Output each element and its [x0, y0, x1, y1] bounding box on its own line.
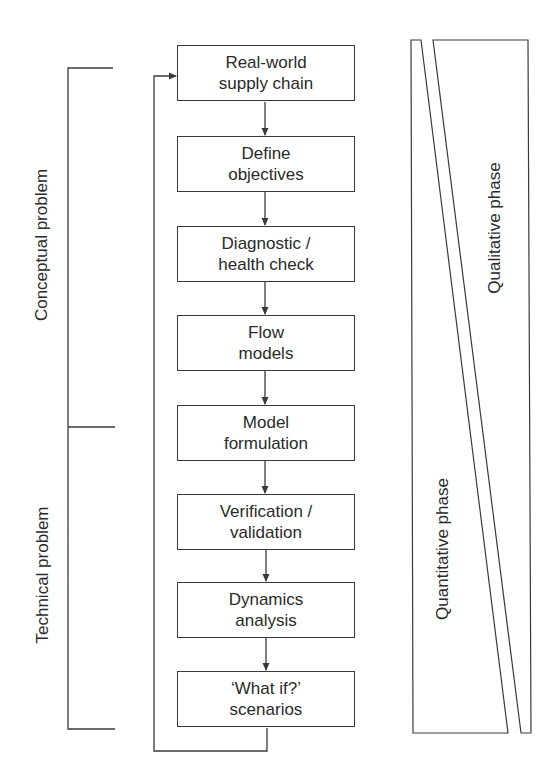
- step-model-formulation: Model formulation: [177, 405, 355, 461]
- step-real-world-supply-chain: Real-world supply chain: [177, 45, 355, 101]
- step-label-line2: formulation: [224, 433, 308, 454]
- step-label-line1: Define: [241, 143, 290, 164]
- step-what-if-scenarios: ‘What if?’ scenarios: [177, 671, 355, 727]
- step-label-line2: models: [239, 343, 294, 364]
- step-dynamics-analysis: Dynamics analysis: [177, 582, 355, 638]
- step-label-line2: objectives: [228, 164, 304, 185]
- flowchart-diagram: Real-world supply chain Define objective…: [0, 0, 556, 776]
- step-label-line2: scenarios: [230, 699, 303, 720]
- step-label-line1: Verification /: [220, 501, 313, 522]
- diagram-lines: [0, 0, 556, 776]
- step-label-line2: analysis: [235, 610, 296, 631]
- step-label-line2: validation: [230, 522, 302, 543]
- step-label-line1: Real-world: [225, 52, 306, 73]
- step-label-line1: ‘What if?’: [231, 678, 301, 699]
- step-label-line2: supply chain: [219, 73, 314, 94]
- step-define-objectives: Define objectives: [177, 136, 355, 192]
- quantitative-phase-label: Quantitative phase: [433, 478, 453, 620]
- conceptual-problem-label: Conceptual problem: [32, 169, 52, 321]
- qualitative-phase-label: Qualitative phase: [485, 162, 505, 293]
- step-diagnostic-health-check: Diagnostic / health check: [177, 226, 355, 282]
- step-label-line1: Diagnostic /: [222, 233, 311, 254]
- technical-problem-label: Technical problem: [33, 506, 53, 643]
- step-label-line1: Model: [243, 412, 289, 433]
- step-label-line2: health check: [218, 254, 313, 275]
- step-verification-validation: Verification / validation: [177, 494, 355, 550]
- step-label-line1: Dynamics: [229, 589, 304, 610]
- step-label-line1: Flow: [248, 322, 284, 343]
- problem-brackets: [68, 68, 115, 729]
- phase-wedges: [411, 40, 531, 733]
- outer-bracket: [68, 68, 115, 729]
- step-flow-models: Flow models: [177, 315, 355, 371]
